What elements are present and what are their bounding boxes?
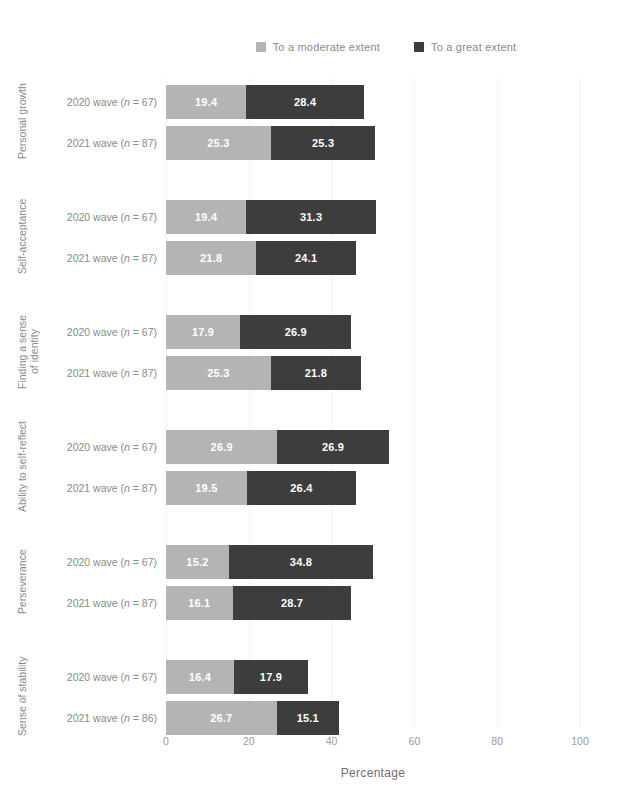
bar-value-label: 15.1	[297, 712, 319, 724]
bar-row[interactable]: 2021 wave (n = 87)25.321.8	[166, 356, 580, 390]
plot-area: 2020 wave (n = 67)19.428.42021 wave (n =…	[166, 78, 580, 728]
bar-row[interactable]: 2020 wave (n = 67)26.926.9	[166, 430, 580, 464]
bar-segment-moderate[interactable]: 19.5	[166, 471, 247, 505]
bar-segment-great[interactable]: 26.9	[277, 430, 388, 464]
bar-segment-moderate[interactable]: 15.2	[166, 545, 229, 579]
bar-segment-moderate[interactable]: 26.9	[166, 430, 277, 464]
gridline-20	[249, 78, 250, 728]
bar-segment-moderate[interactable]: 16.4	[166, 660, 234, 694]
bar-row[interactable]: 2021 wave (n = 87)25.325.3	[166, 126, 580, 160]
bar-value-label: 16.4	[189, 671, 211, 683]
bar-value-label: 26.4	[290, 482, 312, 494]
bar-value-label: 34.8	[290, 556, 312, 568]
wave-label: 2021 wave (n = 87)	[67, 126, 157, 160]
bar-segment-moderate[interactable]: 19.4	[166, 85, 246, 119]
legend-swatch-great	[414, 42, 424, 52]
category-label: Perseverance	[16, 531, 60, 632]
wave-label: 2021 wave (n = 86)	[67, 701, 157, 735]
x-tick-label-0: 0	[163, 735, 169, 747]
bar-segment-great[interactable]: 34.8	[229, 545, 373, 579]
x-axis-title: Percentage	[166, 766, 580, 780]
x-tick-label-80: 80	[491, 735, 503, 747]
bar-segment-great[interactable]: 21.8	[271, 356, 361, 390]
legend-item-1[interactable]: To a great extent	[414, 41, 516, 53]
wave-label: 2020 wave (n = 67)	[67, 660, 157, 694]
bar-value-label: 16.1	[188, 597, 210, 609]
bar-value-label: 17.9	[260, 671, 282, 683]
bar-segment-moderate[interactable]: 25.3	[166, 126, 271, 160]
gridline-60	[414, 78, 415, 728]
bar-value-label: 25.3	[207, 137, 229, 149]
bar-value-label: 26.7	[210, 712, 232, 724]
bar-segment-great[interactable]: 31.3	[246, 200, 376, 234]
bar-segment-great[interactable]: 28.7	[233, 586, 352, 620]
bar-value-label: 19.5	[195, 482, 217, 494]
bar-value-label: 17.9	[192, 326, 214, 338]
legend-label: To a moderate extent	[273, 41, 380, 53]
x-tick-label-60: 60	[409, 735, 421, 747]
bar-group: 2020 wave (n = 67)19.428.42021 wave (n =…	[166, 85, 580, 160]
bar-segment-moderate[interactable]: 25.3	[166, 356, 271, 390]
category-label: Finding a sense of identity	[16, 301, 60, 402]
bar-segment-moderate[interactable]: 16.1	[166, 586, 233, 620]
bar-segment-moderate[interactable]: 19.4	[166, 200, 246, 234]
bar-row[interactable]: 2020 wave (n = 67)19.431.3	[166, 200, 580, 234]
wave-label: 2020 wave (n = 67)	[67, 85, 157, 119]
bar-segment-great[interactable]: 15.1	[277, 701, 340, 735]
gridline-0	[166, 78, 167, 728]
bar-segment-great[interactable]: 17.9	[234, 660, 308, 694]
bar-value-label: 25.3	[312, 137, 334, 149]
category-label: Ability to self-reflect	[16, 416, 60, 517]
bar-value-label: 21.8	[305, 367, 327, 379]
bar-value-label: 26.9	[322, 441, 344, 453]
legend-item-0[interactable]: To a moderate extent	[256, 41, 380, 53]
wave-label: 2020 wave (n = 67)	[67, 545, 157, 579]
bar-row[interactable]: 2020 wave (n = 67)17.926.9	[166, 315, 580, 349]
bar-value-label: 25.3	[207, 367, 229, 379]
bar-row[interactable]: 2021 wave (n = 86)26.715.1	[166, 701, 580, 735]
bar-segment-moderate[interactable]: 17.9	[166, 315, 240, 349]
wave-label: 2021 wave (n = 87)	[67, 471, 157, 505]
gridline-40	[332, 78, 333, 728]
chart-legend: To a moderate extentTo a great extent	[252, 33, 520, 61]
wave-label: 2020 wave (n = 67)	[67, 200, 157, 234]
bar-value-label: 31.3	[300, 211, 322, 223]
legend-swatch-moderate	[256, 42, 266, 52]
bar-value-label: 21.8	[200, 252, 222, 264]
x-tick-label-40: 40	[326, 735, 338, 747]
bar-group: 2020 wave (n = 67)19.431.32021 wave (n =…	[166, 200, 580, 275]
bar-segment-moderate[interactable]: 21.8	[166, 241, 256, 275]
bar-value-label: 15.2	[186, 556, 208, 568]
gridline-100	[580, 78, 581, 728]
bar-group: 2020 wave (n = 67)16.417.92021 wave (n =…	[166, 660, 580, 735]
bar-row[interactable]: 2020 wave (n = 67)16.417.9	[166, 660, 580, 694]
wave-label: 2021 wave (n = 87)	[67, 241, 157, 275]
category-label: Personal growth	[16, 71, 60, 172]
bar-row[interactable]: 2021 wave (n = 87)19.526.4	[166, 471, 580, 505]
bar-segment-great[interactable]: 24.1	[256, 241, 356, 275]
wave-label: 2021 wave (n = 87)	[67, 356, 157, 390]
bar-value-label: 28.7	[281, 597, 303, 609]
bar-value-label: 26.9	[211, 441, 233, 453]
bar-row[interactable]: 2020 wave (n = 67)15.234.8	[166, 545, 580, 579]
bar-value-label: 28.4	[294, 96, 316, 108]
bar-segment-great[interactable]: 28.4	[246, 85, 364, 119]
category-label: Sense of stability	[16, 646, 60, 747]
bar-group: 2020 wave (n = 67)17.926.92021 wave (n =…	[166, 315, 580, 390]
bar-segment-great[interactable]: 26.4	[247, 471, 356, 505]
x-tick-label-100: 100	[571, 735, 589, 747]
bar-segment-moderate[interactable]: 26.7	[166, 701, 277, 735]
bar-group: 2020 wave (n = 67)26.926.92021 wave (n =…	[166, 430, 580, 505]
bar-segment-great[interactable]: 26.9	[240, 315, 351, 349]
wave-label: 2021 wave (n = 87)	[67, 586, 157, 620]
bar-segment-great[interactable]: 25.3	[271, 126, 376, 160]
bar-row[interactable]: 2020 wave (n = 67)19.428.4	[166, 85, 580, 119]
wave-label: 2020 wave (n = 67)	[67, 315, 157, 349]
bar-row[interactable]: 2021 wave (n = 87)16.128.7	[166, 586, 580, 620]
legend-label: To a great extent	[431, 41, 516, 53]
bar-row[interactable]: 2021 wave (n = 87)21.824.1	[166, 241, 580, 275]
bar-value-label: 24.1	[295, 252, 317, 264]
x-tick-label-20: 20	[243, 735, 255, 747]
bar-value-label: 26.9	[285, 326, 307, 338]
wave-label: 2020 wave (n = 67)	[67, 430, 157, 464]
